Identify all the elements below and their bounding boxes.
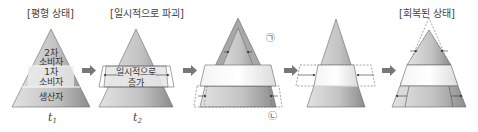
label-secondary-consumer-2: 소비자 [39,57,64,67]
marker-a: ㉠ [266,33,275,43]
diagram-canvas: 2차 소비자 1차 소비자 생산자 t1 일시적으로 증가 t2 [0,0,478,132]
label-producer: 생산자 [39,92,64,102]
arrow-2-icon [183,65,197,76]
label-primary-consumer-1: 1차 [44,66,59,77]
pyramid-recovered [392,18,466,107]
pyramid-disruption: 일시적으로 증가 t2 [99,29,174,125]
pyramid-shrinking: ㉠ ㉡ [194,18,282,121]
pyramid-equilibrium: 2차 소비자 1차 소비자 생산자 t1 [12,29,90,125]
label-temporary-increase-2: 증가 [128,78,144,88]
arrow-4-icon [382,65,396,76]
label-primary-consumer-2: 소비자 [39,77,64,87]
arrow-1-icon [82,65,96,76]
arrow-3-icon [284,65,298,76]
time-label-t1: t1 [48,111,57,125]
pyramid-restoring [296,19,375,107]
time-label-t2: t2 [133,111,142,125]
ecosystem-equilibrium-diagram: [평형 상태] [일시적으로 파괴] [회복된 상태] 2차 [0,0,478,132]
marker-b: ㉡ [268,111,277,121]
label-temporary-increase-1: 일시적으로 [116,66,156,77]
